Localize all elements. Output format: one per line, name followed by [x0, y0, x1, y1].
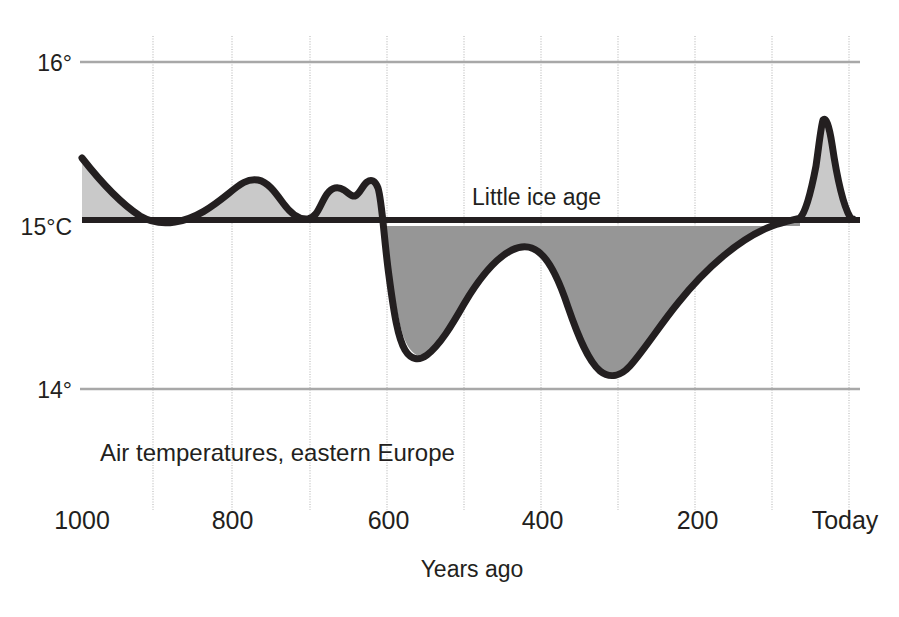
horizontal-gridlines — [80, 62, 860, 389]
x-axis-title: Years ago — [372, 558, 572, 581]
chart-caption: Air temperatures, eastern Europe — [100, 441, 455, 465]
x-tick-label-600: 600 — [331, 508, 446, 533]
x-tick-label-today: Today — [783, 508, 899, 533]
y-tick-label-14: 14° — [14, 379, 72, 402]
y-tick-label-15: 15°C — [0, 216, 72, 239]
x-tick-label-800: 800 — [175, 508, 290, 533]
x-tick-label-1000: 1000 — [22, 508, 142, 533]
x-tick-label-200: 200 — [640, 508, 755, 533]
y-tick-label-16: 16° — [14, 52, 72, 75]
annotation-little-ice-age: Little ice age — [472, 186, 601, 209]
chart-container: 16° 15°C 14° 1000 800 600 400 200 Today … — [0, 0, 899, 617]
x-tick-label-400: 400 — [485, 508, 600, 533]
